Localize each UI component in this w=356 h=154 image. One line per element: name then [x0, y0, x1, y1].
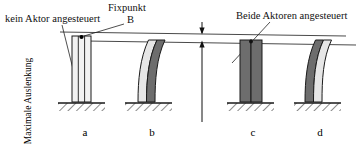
label-fixed-point-marker: B: [127, 14, 134, 25]
label-no-actuator: kein Aktor angesteuert: [5, 13, 100, 24]
deflection-dimension-arrow: [199, 22, 204, 122]
reference-lines: [60, 32, 356, 45]
case-a-beam: [72, 35, 91, 102]
caption-b: b: [140, 126, 164, 138]
case-c-beam: [240, 40, 262, 102]
caption-c: c: [241, 126, 265, 138]
case-b-beam: [138, 40, 165, 102]
label-max-deflection: Maximale Auslenkung: [23, 46, 33, 154]
caption-d: d: [308, 126, 332, 138]
case-a-ground: [58, 103, 105, 111]
reference-line-upper: [60, 32, 346, 36]
fixed-point-marker-dot: [79, 35, 83, 39]
leader-fixed-point: [84, 24, 124, 36]
label-fixed-point: Fixpunkt: [108, 2, 146, 13]
case-b-ground: [125, 103, 172, 111]
caption-a: a: [73, 126, 97, 138]
figure-canvas: kein Aktor angesteuert Fixpunkt B Beide …: [0, 0, 356, 154]
case-d-ground: [294, 103, 341, 111]
label-both-actuators: Beide Aktoren angesteuert: [236, 10, 347, 21]
case-c-ground: [227, 103, 274, 111]
case-d-beam: [305, 40, 332, 102]
